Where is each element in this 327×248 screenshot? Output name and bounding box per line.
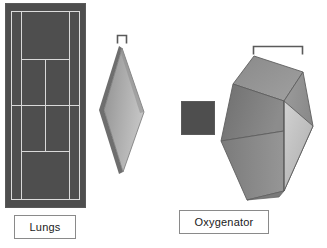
tennis-court	[5, 3, 86, 208]
court-center-service-line	[45, 59, 46, 152]
bracket-wide-icon	[254, 47, 303, 55]
box-face-top	[233, 56, 303, 101]
box-face-right	[284, 72, 313, 191]
box-face-front	[284, 101, 313, 191]
diagram-canvas: Lungs Oxygenator	[0, 0, 327, 248]
bracket-small-icon	[118, 36, 127, 44]
label-oxygenator: Oxygenator	[179, 210, 269, 234]
label-lungs: Lungs	[14, 215, 76, 239]
small-dark-square	[181, 101, 215, 135]
box-face-front-lower	[221, 131, 284, 200]
box-face-left	[221, 84, 284, 141]
label-oxygenator-text: Oxygenator	[195, 216, 254, 228]
box-face-bottom	[247, 191, 284, 200]
diamond-slab	[99, 46, 144, 174]
label-lungs-text: Lungs	[30, 221, 61, 233]
oxygenator-box	[221, 56, 313, 200]
